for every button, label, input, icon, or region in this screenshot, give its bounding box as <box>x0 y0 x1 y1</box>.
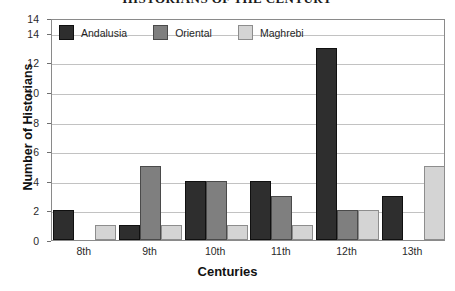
x-tick-label: 8th <box>77 245 92 257</box>
bar <box>161 225 182 240</box>
bar-chart: HISTORIANS OF THE CENTURY Number of Hist… <box>0 0 455 291</box>
chart-legend: AndalusiaOrientalMaghrebi <box>59 25 304 40</box>
legend-label: Andalusia <box>81 27 127 39</box>
bar <box>424 166 445 240</box>
y-tick-label: 8 <box>33 117 39 129</box>
bar <box>337 210 358 240</box>
bar-group <box>118 20 184 240</box>
y-tick-label: 14 <box>27 28 39 40</box>
x-axis-title: Centuries <box>0 264 455 279</box>
y-tick-label: 2 <box>33 205 39 217</box>
y-tick-label: 0 <box>33 235 39 247</box>
bar <box>316 48 337 240</box>
bar <box>140 166 161 240</box>
bar <box>185 181 206 240</box>
bar <box>227 225 248 240</box>
x-tick-label: 12th <box>336 245 356 257</box>
bar-group <box>249 20 315 240</box>
bar-group <box>183 20 249 240</box>
bar <box>271 196 292 240</box>
bar <box>95 225 116 240</box>
bar <box>53 210 74 240</box>
y-tick-label: 12 <box>27 57 39 69</box>
y-tick-label: 10 <box>27 87 39 99</box>
bar <box>292 225 313 240</box>
bar <box>382 196 403 240</box>
plot-area <box>51 19 445 241</box>
y-axis-tick-labels: 0246810121414 <box>0 0 47 291</box>
bar-group <box>380 20 446 240</box>
legend-label: Oriental <box>175 27 212 39</box>
x-tick-label: 13th <box>402 245 422 257</box>
x-axis-tick-labels: 8th9th10th11th12th13th <box>51 245 445 261</box>
y-tick-label: 6 <box>33 146 39 158</box>
legend-swatch-icon <box>59 25 74 40</box>
legend-item[interactable]: Maghrebi <box>238 25 304 40</box>
bar-group <box>315 20 381 240</box>
legend-item[interactable]: Andalusia <box>59 25 127 40</box>
legend-label: Maghrebi <box>260 27 304 39</box>
legend-swatch-icon <box>153 25 168 40</box>
chart-title: HISTORIANS OF THE CENTURY <box>0 0 455 7</box>
legend-item[interactable]: Oriental <box>153 25 212 40</box>
y-tick-label: 14 <box>27 13 39 25</box>
bar <box>250 181 271 240</box>
bar <box>358 210 379 240</box>
y-tick-mark <box>47 241 51 242</box>
x-tick-label: 9th <box>142 245 157 257</box>
bar <box>206 181 227 240</box>
bar <box>119 225 140 240</box>
x-tick-label: 11th <box>271 245 291 257</box>
bar-groups <box>52 20 444 240</box>
bar-group <box>52 20 118 240</box>
x-tick-label: 10th <box>205 245 225 257</box>
y-tick-label: 4 <box>33 176 39 188</box>
legend-swatch-icon <box>238 25 253 40</box>
